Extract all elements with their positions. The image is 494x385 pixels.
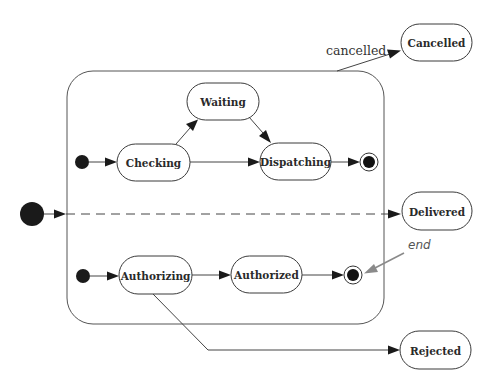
arrowhead-icon: [248, 158, 260, 167]
transition-checking-to-waiting: [176, 128, 190, 144]
arrowhead-icon: [348, 158, 360, 167]
state-rejected[interactable]: Rejected: [400, 331, 471, 369]
lower-final-state-dot-icon: [347, 269, 359, 281]
state-authorizing[interactable]: Authorizing: [119, 256, 192, 294]
state-checking-label: Checking: [126, 157, 182, 169]
lower-initial-state-icon: [76, 269, 90, 283]
arrowhead-icon: [107, 272, 119, 281]
end-annotation-label: end: [408, 238, 431, 252]
upper-initial-state-icon: [75, 155, 89, 169]
arrowhead-icon: [259, 130, 271, 143]
state-authorizing-label: Authorizing: [120, 270, 191, 282]
arrowhead-icon: [387, 50, 401, 59]
state-cancelled-label: Cancelled: [408, 37, 467, 49]
state-waiting-label: Waiting: [199, 96, 246, 108]
state-checking[interactable]: Checking: [117, 144, 190, 181]
arrowhead-icon: [388, 346, 400, 355]
state-authorized[interactable]: Authorized: [231, 256, 302, 293]
end-annotation-arrowhead-icon: [364, 264, 378, 274]
state-dispatching[interactable]: Dispatching: [260, 143, 332, 180]
state-delivered-label: Delivered: [409, 206, 466, 218]
outer-initial-state-icon: [20, 202, 44, 226]
upper-final-state-dot-icon: [363, 156, 375, 168]
arrowhead-icon: [219, 271, 231, 280]
state-cancelled[interactable]: Cancelled: [401, 24, 472, 61]
state-authorized-label: Authorized: [233, 269, 299, 281]
state-waiting[interactable]: Waiting: [187, 83, 259, 120]
arrowhead-icon: [54, 210, 66, 219]
state-delivered[interactable]: Delivered: [402, 192, 472, 230]
state-dispatching-label: Dispatching: [260, 156, 332, 168]
state-diagram: Waiting Checking Dispatching Authorizing…: [0, 0, 494, 385]
arrowhead-icon: [105, 158, 117, 167]
end-annotation-pointer: [373, 253, 404, 269]
cancelled-transition-label: cancelled: [326, 43, 386, 58]
transition-waiting-to-dispatching: [249, 117, 263, 133]
state-rejected-label: Rejected: [410, 345, 462, 357]
arrowhead-icon: [332, 271, 344, 280]
arrowhead-icon: [186, 120, 198, 132]
transition-authorizing-to-rejected: [153, 294, 388, 350]
arrowhead-icon: [388, 210, 401, 219]
